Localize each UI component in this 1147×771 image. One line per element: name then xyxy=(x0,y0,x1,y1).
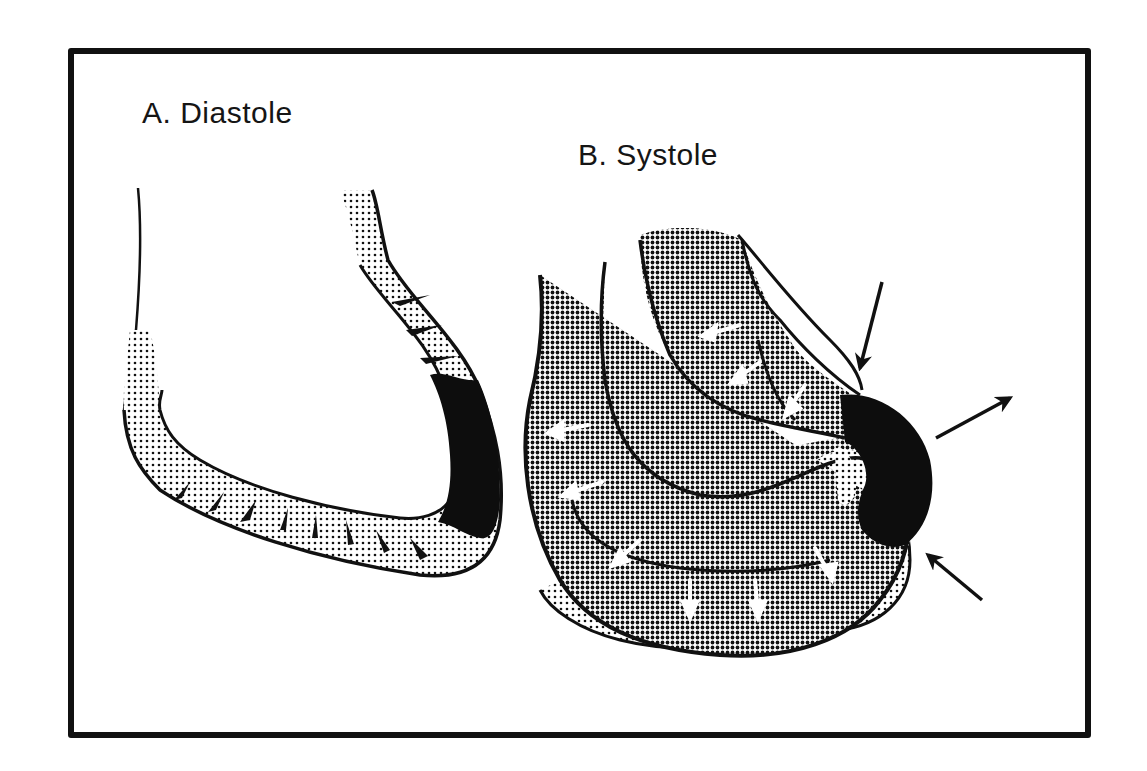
diastole-ventricle xyxy=(124,188,502,576)
heart-illustration xyxy=(0,0,1147,771)
black-arrow-icon-inward-top xyxy=(860,282,882,368)
black-arrow-icon-inward-bottom xyxy=(928,555,982,600)
systole-ventricle xyxy=(525,228,932,656)
black-arrow-icon-outward xyxy=(936,398,1010,438)
